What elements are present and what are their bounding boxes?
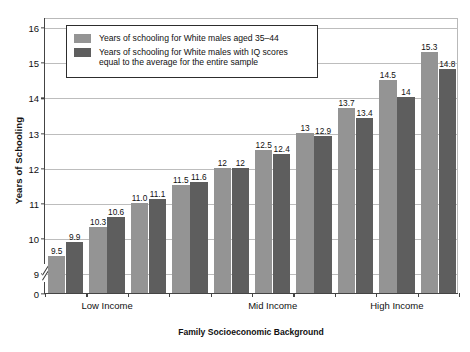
- group-label-mid-income: Mid Income: [248, 300, 297, 311]
- bar-series-b-8: [356, 118, 374, 293]
- bar-value-label-series-b-1: 9.9: [69, 232, 81, 242]
- y-tick-label: 12: [28, 163, 39, 174]
- bar-value-label-series-a-8: 13.7: [338, 98, 354, 108]
- bar-series-a-6: [255, 150, 273, 293]
- group-label-low-income: Low Income: [81, 300, 132, 311]
- y-tick-label: 10: [28, 234, 39, 245]
- bar-value-label-series-b-3: 11.1: [150, 189, 166, 199]
- bar-series-a-7: [296, 133, 314, 293]
- x-tick-mark: [252, 293, 253, 297]
- bar-value-label-series-a-3: 11.0: [132, 193, 148, 203]
- y-tick-label: 15: [28, 58, 39, 69]
- y-tick-label: 11: [29, 198, 39, 209]
- bar-value-label-series-a-4: 11.5: [173, 175, 189, 185]
- x-tick-mark: [418, 293, 419, 297]
- bar-series-b-1: [66, 242, 84, 293]
- bar-value-label-series-a-5: 12: [218, 158, 227, 168]
- bar-value-label-series-a-10: 15.3: [421, 42, 437, 52]
- x-tick-mark: [86, 293, 87, 297]
- bar-series-b-4: [190, 182, 208, 293]
- y-tick-label-zero: 0: [34, 289, 39, 300]
- chart-legend: Years of schooling for White males aged …: [66, 25, 318, 78]
- bar-value-label-series-a-2: 10.3: [90, 217, 106, 227]
- bar-series-a-10: [421, 52, 439, 293]
- y-tick-label: 13: [28, 128, 39, 139]
- bar-series-a-2: [89, 227, 107, 293]
- bar-series-b-2: [107, 217, 125, 293]
- bar-value-label-series-a-9: 14.5: [380, 70, 396, 80]
- bar-value-label-series-b-9: 14: [401, 87, 410, 97]
- legend-entry-series-a: Years of schooling for White males aged …: [74, 33, 310, 44]
- bar-series-a-8: [338, 108, 356, 293]
- bar-series-a-1: [48, 256, 66, 293]
- x-tick-mark: [376, 293, 377, 297]
- legend-swatch-icon-series-b: [74, 48, 91, 57]
- x-tick-mark: [335, 293, 336, 297]
- bar-series-a-4: [172, 185, 190, 293]
- bar-series-a-9: [379, 80, 397, 293]
- bar-value-label-series-b-10: 14.8: [439, 59, 455, 69]
- bar-value-label-series-a-6: 12.5: [256, 140, 272, 150]
- y-tick-label: 16: [28, 23, 39, 34]
- bar-value-label-series-b-7: 12.9: [315, 126, 331, 136]
- bar-series-b-10: [439, 69, 457, 293]
- x-axis-title: Family Socioeconomic Background: [44, 327, 458, 337]
- legend-label-series-a: Years of schooling for White males aged …: [99, 33, 279, 44]
- bar-series-b-5: [232, 168, 250, 293]
- bar-value-label-series-b-4: 11.6: [191, 172, 207, 182]
- bar-series-a-5: [214, 168, 232, 293]
- bar-value-label-series-b-5: 12: [236, 158, 245, 168]
- legend-label-series-b: Years of schooling for White males with …: [99, 47, 310, 68]
- bar-value-label-series-a-1: 9.5: [51, 246, 63, 256]
- y-tick-label: 14: [28, 93, 39, 104]
- bar-series-b-3: [149, 199, 167, 293]
- x-tick-mark: [293, 293, 294, 297]
- bar-value-label-series-b-6: 12.4: [274, 144, 290, 154]
- x-tick-mark: [45, 293, 46, 297]
- bar-value-label-series-b-2: 10.6: [108, 207, 124, 217]
- bar-value-label-series-b-8: 13.4: [356, 108, 372, 118]
- bar-series-b-9: [397, 97, 415, 293]
- x-tick-mark: [169, 293, 170, 297]
- x-tick-mark: [459, 293, 460, 297]
- bar-series-b-7: [314, 136, 332, 293]
- bar-series-b-6: [273, 154, 291, 293]
- legend-swatch-icon-series-a: [74, 34, 91, 43]
- y-axis-title: Years of Schooling: [13, 96, 24, 226]
- x-tick-mark: [128, 293, 129, 297]
- legend-entry-series-b: Years of schooling for White males with …: [74, 47, 310, 68]
- bar-chart-figure: Years of Schooling 1615141312111090 9.59…: [0, 0, 470, 352]
- bar-value-label-series-a-7: 13: [300, 123, 309, 133]
- group-label-high-income: High Income: [370, 300, 423, 311]
- x-tick-mark: [211, 293, 212, 297]
- bar-series-a-3: [131, 203, 149, 293]
